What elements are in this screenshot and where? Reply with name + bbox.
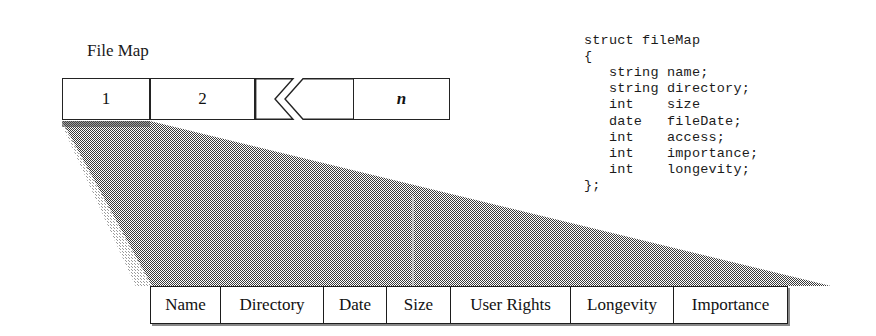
struct-filemap-code: struct fileMap { string name; string dir…	[584, 33, 758, 195]
table-column-name[interactable]: Name	[151, 287, 221, 323]
table-column-longevity[interactable]: Longevity	[571, 287, 674, 323]
array-cell-2[interactable]: 2	[150, 78, 255, 120]
funnel-edge-highlight	[60, 121, 152, 287]
file-map-label: File Map	[87, 41, 149, 61]
file-map-array: 1 2 n	[62, 78, 450, 120]
record-field-table: Name Directory Date Size User Rights Lon…	[150, 286, 788, 324]
table-column-date[interactable]: Date	[324, 287, 387, 323]
array-break-icon	[255, 78, 360, 120]
array-cell-1[interactable]: 1	[62, 78, 150, 120]
diagram-canvas: File Map 1 2 n Name Directory Date Size …	[0, 0, 876, 336]
array-cell-n[interactable]: n	[353, 78, 450, 120]
table-column-size[interactable]: Size	[387, 287, 451, 323]
table-column-user-rights[interactable]: User Rights	[451, 287, 571, 323]
table-column-directory[interactable]: Directory	[221, 287, 324, 323]
table-column-importance[interactable]: Importance	[674, 287, 787, 323]
funnel-top-cap	[62, 121, 150, 127]
